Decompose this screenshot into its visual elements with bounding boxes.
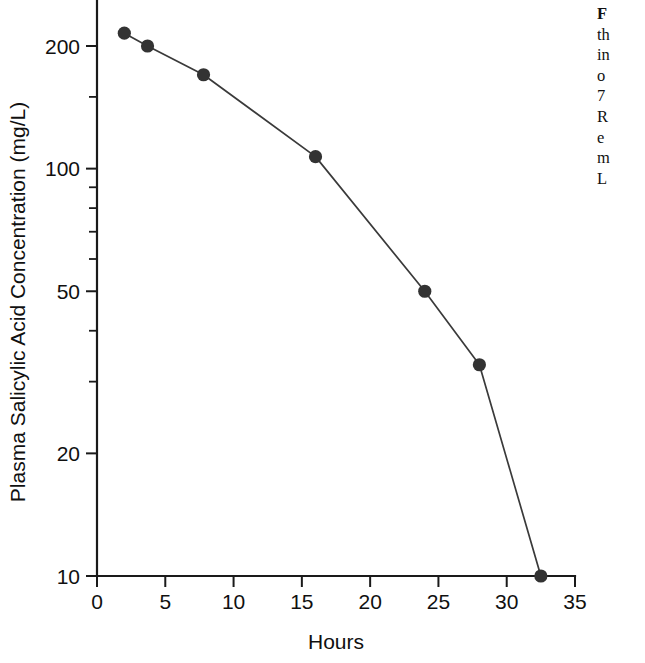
data-line [124, 33, 541, 576]
caption-line: in [597, 45, 645, 66]
caption-line: L [597, 169, 645, 190]
x-tick-label: 20 [358, 590, 381, 613]
caption-line: 7 [597, 86, 645, 107]
chart-figure: 10205010020005101520253035HoursPlasma Sa… [0, 0, 590, 663]
data-point [309, 150, 322, 163]
x-tick-label: 15 [290, 590, 313, 613]
data-point [473, 358, 486, 371]
x-tick-label: 5 [159, 590, 171, 613]
figure-page: 10205010020005101520253035HoursPlasma Sa… [0, 0, 645, 663]
line-chart: 10205010020005101520253035HoursPlasma Sa… [0, 0, 590, 663]
y-tick-label: 10 [57, 565, 80, 588]
data-point [141, 39, 154, 52]
x-tick-label: 35 [563, 590, 586, 613]
x-tick-label: 25 [427, 590, 450, 613]
data-point [197, 68, 210, 81]
x-tick-label: 10 [222, 590, 245, 613]
y-tick-label: 20 [57, 442, 80, 465]
caption-line: R [597, 107, 645, 128]
figure-caption: Fthino7RemL [597, 4, 645, 189]
data-point [118, 27, 131, 40]
data-point [534, 569, 547, 582]
caption-line: e [597, 128, 645, 149]
y-tick-label: 200 [45, 35, 80, 58]
caption-line: m [597, 148, 645, 169]
x-axis-title: Hours [308, 630, 364, 653]
caption-line: F [597, 4, 645, 25]
caption-line: o [597, 66, 645, 87]
caption-line: th [597, 25, 645, 46]
y-tick-label: 50 [57, 280, 80, 303]
y-axis-title: Plasma Salicylic Acid Concentration (mg/… [6, 102, 29, 502]
data-point [418, 285, 431, 298]
x-tick-label: 30 [495, 590, 518, 613]
x-tick-label: 0 [91, 590, 103, 613]
y-tick-label: 100 [45, 157, 80, 180]
